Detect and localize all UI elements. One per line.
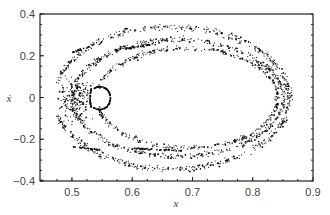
- x-axis: 0.50.60.70.80.9: [42, 177, 321, 198]
- y-axis: 0.40.20−0.2−0.4: [13, 8, 313, 187]
- y-tick-label: −0.2: [13, 133, 35, 145]
- y-tick-label: 0.2: [20, 50, 35, 62]
- x-tick-label: 0.5: [64, 186, 79, 198]
- x-tick-label: 0.9: [305, 186, 320, 198]
- x-tick-label: 0.7: [185, 186, 200, 198]
- y-tick-label: −0.4: [13, 175, 35, 187]
- scatter-points: [56, 24, 293, 172]
- phase-plot: 0.50.60.70.80.9 0.40.20−0.2−0.4 x ẋ: [0, 0, 330, 215]
- y-tick-label: 0: [29, 92, 35, 104]
- y-axis-label: ẋ: [6, 92, 12, 104]
- x-tick-label: 0.6: [125, 186, 140, 198]
- x-axis-label: x: [173, 197, 179, 209]
- y-tick-label: 0.4: [20, 8, 35, 20]
- x-tick-label: 0.8: [245, 186, 260, 198]
